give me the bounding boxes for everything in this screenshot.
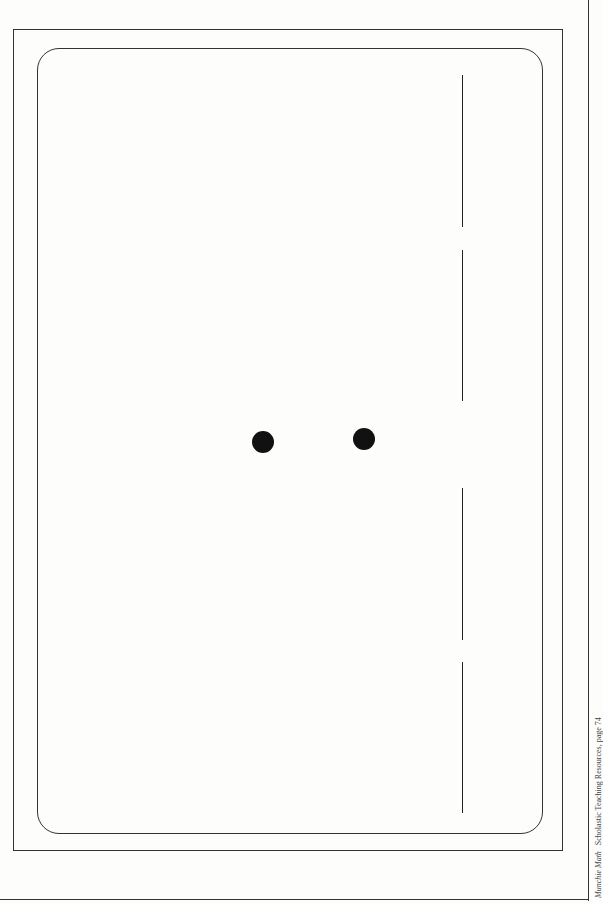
book-title: Munchie Math [594, 851, 603, 898]
domino-dot [252, 431, 274, 453]
domino-dot [353, 428, 375, 450]
footer-credit: Munchie MathScholastic Teaching Resource… [594, 717, 603, 898]
fold-line-segment [462, 662, 463, 813]
inner-rounded-card [37, 48, 543, 834]
fold-line-segment [462, 75, 463, 227]
page-edge-right [588, 0, 589, 901]
publisher-reference: Scholastic Teaching Resources, page 74 [594, 717, 603, 845]
fold-line-segment [462, 488, 463, 640]
fold-line-segment [462, 250, 463, 401]
page-edge-bottom [0, 899, 589, 900]
